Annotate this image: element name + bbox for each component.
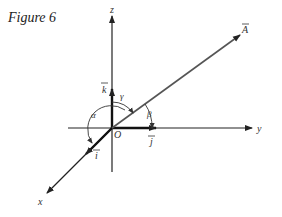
svg-text:k: k [102,84,107,95]
svg-text:j: j [148,136,153,147]
origin-label: O [114,129,121,140]
unit-k-label: k [101,83,108,95]
coordinate-diagram: z y x O A k j i α β γ [0,0,282,217]
alpha-label: α [91,110,96,120]
z-axis-label: z [109,4,114,15]
x-axis-label: x [37,196,43,207]
vector-a-label: A [241,24,249,35]
y-axis-label: y [256,123,262,134]
gamma-label: γ [120,91,124,101]
gamma-arc [112,102,133,113]
vector-a [112,35,240,128]
unit-j-label: j [148,136,155,147]
unit-i-label: i [93,150,100,161]
svg-text:i: i [95,150,98,161]
beta-label: β [146,109,152,119]
svg-text:A: A [241,24,249,35]
